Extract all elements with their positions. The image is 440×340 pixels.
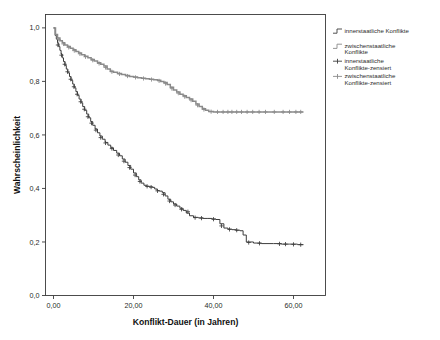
y-tick-label: 1,0 — [30, 23, 40, 32]
chart-background — [0, 0, 440, 340]
y-tick-label: 0,2 — [30, 238, 40, 247]
y-tick-label: 0,8 — [30, 77, 40, 86]
legend-label: Konflikte — [345, 48, 369, 55]
chart-canvas: 0,00,20,40,60,81,0 0,0020,0040,0060,00 K… — [0, 0, 440, 340]
y-tick-label: 0,6 — [30, 131, 40, 140]
x-axis-title: Konflikt-Dauer (in Jahren) — [133, 317, 239, 327]
legend-item-1: innerstaatliche Konflikte — [333, 27, 409, 34]
x-tick-label: 20,00 — [125, 301, 143, 310]
survival-chart: 0,00,20,40,60,81,0 0,0020,0040,0060,00 K… — [0, 0, 440, 340]
legend-label: innerstaatliche Konflikte — [345, 27, 410, 34]
legend-label: Konflikte-zensiert — [345, 79, 392, 86]
x-tick-label: 40,00 — [205, 301, 223, 310]
legend-label: Konflikte-zensiert — [345, 64, 392, 71]
y-tick-label: 0,0 — [30, 291, 40, 300]
y-axis-title: Wahrscheinlichkeit — [12, 116, 22, 194]
x-tick-label: 60,00 — [285, 301, 303, 310]
y-tick-label: 0,4 — [30, 184, 40, 193]
x-tick-label: 0,00 — [47, 301, 61, 310]
